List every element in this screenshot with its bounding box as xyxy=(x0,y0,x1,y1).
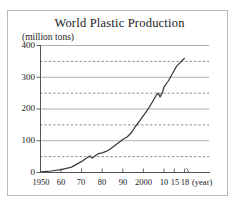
ytick-label-200: 200 xyxy=(14,103,35,113)
chart-figure: World Plastic Production (million tons) xyxy=(0,0,239,206)
x-axis-unit-label: (year) xyxy=(192,177,212,187)
y-axis-ticks xyxy=(37,46,41,173)
xtick-label-60: 60 xyxy=(52,177,70,187)
ytick-label-300: 300 xyxy=(14,72,35,82)
xtick-label-80: 80 xyxy=(93,177,111,187)
ytick-label-0: 0 xyxy=(14,167,35,177)
xtick-label-70: 70 xyxy=(72,177,90,187)
plot-area xyxy=(0,0,239,206)
data-line-world-plastic-production xyxy=(41,59,185,172)
x-axis-end-hook xyxy=(186,168,188,172)
ytick-label-400: 400 xyxy=(14,40,35,50)
ytick-label-100: 100 xyxy=(14,135,35,145)
xtick-label-18: 18 xyxy=(177,177,193,187)
xtick-label-2000: 2000 xyxy=(131,177,156,187)
xtick-label-90: 90 xyxy=(114,177,132,187)
xtick-label-1950: 1950 xyxy=(28,177,54,187)
